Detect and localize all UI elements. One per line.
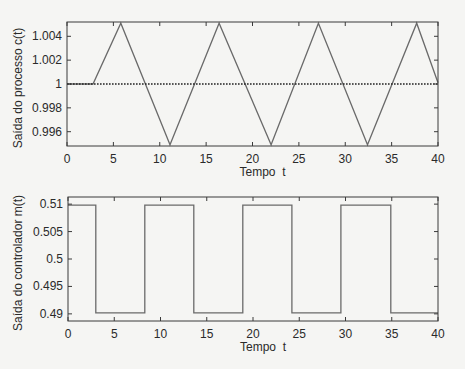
series-line-mt	[68, 205, 438, 313]
y-tick-label: 0.49	[40, 307, 64, 321]
x-tick-label: 5	[111, 327, 118, 341]
x-tick-label: 5	[110, 152, 117, 166]
x-tick-label: 15	[199, 152, 213, 166]
x-tick-label: 25	[292, 152, 306, 166]
y-tick-label: 0.505	[33, 225, 63, 239]
process-output-y-axis-label: Saída do processo c(t)	[11, 28, 25, 149]
process-output-x-axis-label: Tempo t	[239, 165, 286, 179]
x-tick-label: 30	[339, 152, 353, 166]
y-tick-label: 0.996	[32, 125, 62, 139]
process-output-series	[67, 23, 438, 145]
x-tick-label: 35	[385, 152, 399, 166]
controller-output-plot-frame	[68, 197, 438, 321]
y-tick-label: 0.51	[40, 197, 64, 211]
controller-output-ticks: 05101520253035400.490.4950.50.5050.51	[33, 197, 445, 341]
x-tick-label: 30	[339, 327, 353, 341]
x-tick-label: 35	[385, 327, 399, 341]
x-tick-label: 20	[246, 152, 260, 166]
process-output-plot: 05101520253035400.9960.99811.0021.004 Te…	[11, 22, 445, 179]
y-tick-label: 0.5	[46, 252, 63, 266]
y-tick-label: 0.495	[33, 279, 63, 293]
figure: 05101520253035400.9960.99811.0021.004 Te…	[0, 0, 465, 369]
y-tick-label: 1	[55, 77, 62, 91]
x-tick-label: 40	[431, 152, 445, 166]
controller-output-plot: 05101520253035400.490.4950.50.5050.51 Te…	[11, 195, 445, 354]
x-tick-label: 10	[154, 327, 168, 341]
controller-output-x-axis-label: Tempo t	[240, 340, 287, 354]
y-tick-label: 1.004	[32, 29, 62, 43]
x-tick-label: 40	[431, 327, 445, 341]
x-tick-label: 10	[153, 152, 167, 166]
x-tick-label: 25	[293, 327, 307, 341]
x-tick-label: 0	[64, 152, 71, 166]
x-tick-label: 20	[246, 327, 260, 341]
x-tick-label: 0	[65, 327, 72, 341]
controller-output-y-axis-label: Saída do controlador m(t)	[11, 195, 25, 331]
x-tick-label: 15	[200, 327, 214, 341]
controller-output-series	[68, 205, 438, 313]
process-output-ticks: 05101520253035400.9960.99811.0021.004	[32, 22, 445, 166]
y-tick-label: 1.002	[32, 53, 62, 67]
y-tick-label: 0.998	[32, 101, 62, 115]
figure-canvas: 05101520253035400.9960.99811.0021.004 Te…	[0, 0, 465, 369]
